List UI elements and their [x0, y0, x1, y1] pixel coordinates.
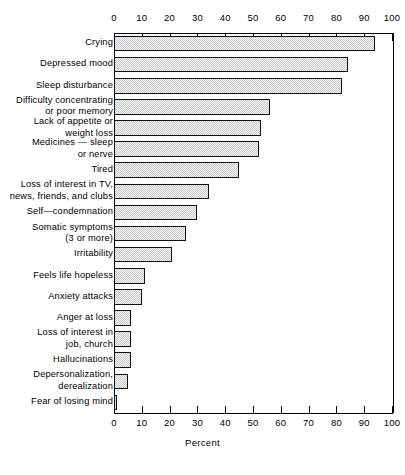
category-label: Depersonalization, derealization [0, 369, 113, 392]
bar [114, 374, 128, 390]
x-axis-title-text: Percent [185, 437, 220, 448]
category-label: Medicines — sleep or nerve [0, 137, 113, 160]
bar [114, 141, 259, 157]
axis-tick-label-top-70: 70 [294, 12, 324, 23]
axis-tick-bottom-40 [225, 406, 226, 413]
bar [114, 289, 142, 305]
axis-tick-label-bottom-80: 80 [321, 417, 351, 428]
bar [114, 395, 117, 411]
axis-tick-bottom-90 [364, 406, 365, 413]
axis-tick-label-bottom-90: 90 [349, 417, 379, 428]
bar [114, 120, 261, 136]
axis-tick-bottom-30 [197, 406, 198, 413]
axis-tick-bottom-10 [142, 406, 143, 413]
category-label: Loss of interest in job, church [0, 327, 113, 350]
bar [114, 57, 348, 73]
category-label: Tired [0, 164, 113, 175]
category-label: Depressed mood [0, 58, 113, 69]
axis-tick-label-top-60: 60 [266, 12, 296, 23]
axis-tick-label-top-100: 100 [377, 12, 405, 23]
category-label: Crying [0, 37, 113, 48]
axis-tick-top-100 [392, 34, 393, 41]
axis-tick-label-bottom-60: 60 [266, 417, 296, 428]
bar-chart-figure: 0102030405060708090100 01020304050607080… [0, 0, 405, 475]
axis-tick-label-top-0: 0 [99, 12, 129, 23]
axis-tick-label-top-30: 30 [182, 12, 212, 23]
axis-tick-bottom-80 [336, 406, 337, 413]
category-label: Feels life hopeless [0, 270, 113, 281]
category-label: Hallucinations [0, 354, 113, 365]
axis-tick-label-top-50: 50 [238, 12, 268, 23]
bar [114, 310, 131, 326]
axis-tick-label-top-20: 20 [155, 12, 185, 23]
axis-tick-bottom-50 [253, 406, 254, 413]
axis-tick-bottom-60 [281, 406, 282, 413]
bar [114, 268, 145, 284]
bar [114, 36, 375, 52]
category-label: Irritability [0, 248, 113, 259]
axis-tick-label-bottom-0: 0 [99, 417, 129, 428]
x-axis-title: Percent [0, 437, 405, 448]
axis-tick-label-top-80: 80 [321, 12, 351, 23]
bar [114, 205, 197, 221]
axis-tick-bottom-70 [309, 406, 310, 413]
axis-tick-label-top-10: 10 [127, 12, 157, 23]
bottom-axis-line [114, 413, 393, 414]
bar [114, 226, 186, 242]
bar [114, 247, 172, 263]
category-label: Lack of appetite or weight loss [0, 116, 113, 139]
bar [114, 99, 270, 115]
category-label: Difficulty concentrating or poor memory [0, 95, 113, 118]
axis-tick-label-bottom-50: 50 [238, 417, 268, 428]
category-label: Sleep disturbance [0, 80, 113, 91]
axis-tick-label-top-40: 40 [210, 12, 240, 23]
bar [114, 352, 131, 368]
bar [114, 78, 342, 94]
category-label: Loss of interest in TV, news, friends, a… [0, 179, 113, 202]
category-label: Somatic symptoms (3 or more) [0, 222, 113, 245]
axis-tick-label-bottom-30: 30 [182, 417, 212, 428]
axis-tick-bottom-20 [170, 406, 171, 413]
axis-tick-label-top-90: 90 [349, 12, 379, 23]
axis-tick-label-bottom-40: 40 [210, 417, 240, 428]
bar [114, 331, 131, 347]
bar [114, 184, 209, 200]
category-label: Anger at loss [0, 312, 113, 323]
bar [114, 162, 239, 178]
category-label: Fear of losing mind [0, 396, 113, 407]
category-label: Anxiety attacks [0, 291, 113, 302]
axis-tick-bottom-100 [392, 406, 393, 413]
category-label: Self—condemnation [0, 206, 113, 217]
axis-tick-label-bottom-20: 20 [155, 417, 185, 428]
axis-tick-label-bottom-70: 70 [294, 417, 324, 428]
axis-tick-label-bottom-10: 10 [127, 417, 157, 428]
axis-tick-label-bottom-100: 100 [377, 417, 405, 428]
